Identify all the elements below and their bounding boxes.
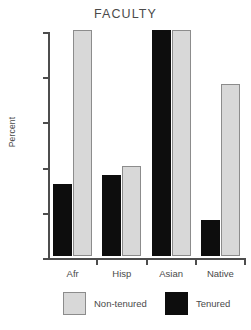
x-tick-1	[96, 258, 98, 265]
x-category-label-afr: Afr	[48, 268, 97, 279]
x-tick-2	[146, 258, 148, 265]
legend-label-tenured: Tenured	[196, 298, 230, 309]
bar-non-tenured-native	[221, 84, 240, 256]
x-category-label-hisp: Hisp	[97, 268, 146, 279]
plot-area: 012345 AfrHispAsianNative	[48, 32, 245, 258]
y-tick-0	[43, 258, 50, 260]
legend-swatch-non-tenured-icon	[63, 292, 86, 315]
legend-label-non-tenured: Non-tenured	[94, 298, 147, 309]
y-tick-3	[43, 122, 50, 124]
y-tick-2	[43, 168, 50, 170]
bar-tenured-native	[201, 220, 220, 256]
bar-non-tenured-asian	[172, 30, 191, 256]
chart-legend: Non-tenured Tenured	[0, 292, 251, 326]
bar-tenured-hisp	[102, 175, 121, 256]
x-category-label-asian: Asian	[147, 268, 196, 279]
bar-non-tenured-afr	[73, 30, 92, 256]
legend-entry-tenured: Tenured	[165, 292, 230, 315]
bar-tenured-afr	[53, 184, 72, 256]
bar-tenured-asian	[152, 30, 171, 256]
x-tick-3	[195, 258, 197, 265]
y-axis-label: Percent	[7, 102, 17, 162]
y-axis-line	[48, 32, 50, 259]
legend-entry-non-tenured: Non-tenured	[63, 292, 147, 315]
x-tick-4	[244, 258, 246, 265]
bar-non-tenured-hisp	[122, 166, 141, 256]
legend-swatch-tenured-icon	[165, 292, 188, 315]
y-tick-1	[43, 213, 50, 215]
chart-title: FACULTY	[0, 7, 251, 21]
y-tick-4	[43, 77, 50, 79]
x-category-label-native: Native	[196, 268, 245, 279]
y-tick-5	[43, 32, 50, 34]
faculty-bar-chart: FACULTY Percent 012345 AfrHispAsianNativ…	[0, 0, 251, 330]
